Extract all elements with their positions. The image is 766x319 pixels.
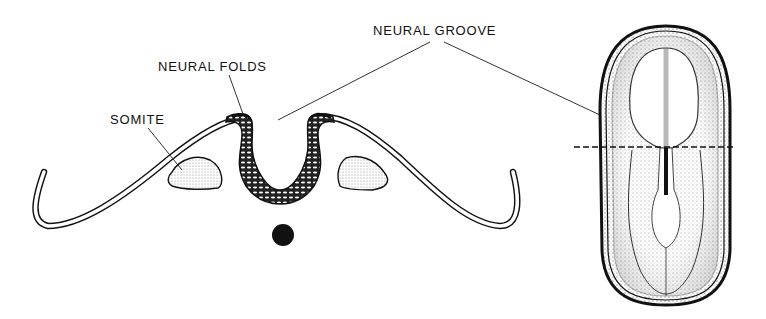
label-neural-groove: NEURAL GROOVE [373, 24, 496, 37]
neural-plate [226, 114, 334, 204]
leader-neural-folds [229, 75, 243, 114]
diagram-drawing [0, 0, 766, 319]
label-somite: SOMITE [110, 113, 165, 126]
label-neural-folds: NEURAL FOLDS [158, 60, 267, 73]
notochord [272, 224, 294, 246]
leader-groove-left [278, 42, 430, 120]
somite-right [338, 157, 388, 190]
neural-groove-diagram: NEURAL GROOVE NEURAL FOLDS SOMITE [0, 0, 766, 319]
somite-left [168, 157, 222, 189]
embryo-dorsal-view [600, 26, 730, 305]
